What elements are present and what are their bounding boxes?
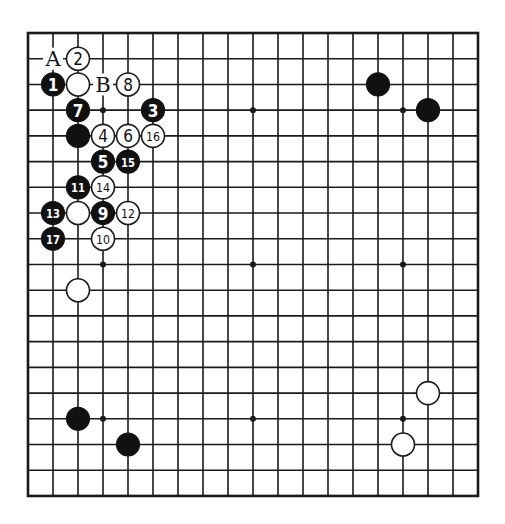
white-stone <box>392 433 415 456</box>
white-stone-6: 6 <box>117 124 140 147</box>
move-number: 7 <box>73 101 84 121</box>
move-number: 16 <box>146 129 160 144</box>
star-point-icon <box>100 416 106 422</box>
black-stone <box>67 407 90 430</box>
move-number: 1 <box>48 75 59 95</box>
star-point-icon <box>250 107 256 113</box>
black-stone-15: 15 <box>117 150 140 173</box>
black-stone <box>367 73 390 96</box>
black-stone-icon <box>367 73 390 96</box>
move-number: 5 <box>98 152 109 172</box>
black-stone-icon <box>417 99 440 122</box>
white-stone-14: 14 <box>92 176 115 199</box>
white-stone <box>417 382 440 405</box>
white-stone-16: 16 <box>142 124 165 147</box>
black-stone-3: 3 <box>142 99 165 122</box>
black-stone-17: 17 <box>42 227 65 250</box>
move-number: 4 <box>98 126 108 146</box>
black-stone-5: 5 <box>92 150 115 173</box>
star-point-icon <box>400 416 406 422</box>
star-point-icon <box>250 261 256 267</box>
point-label-b: B <box>95 73 110 97</box>
black-stone-icon <box>117 433 140 456</box>
white-stone-10: 10 <box>92 227 115 250</box>
white-stone-4: 4 <box>92 124 115 147</box>
black-stone <box>67 124 90 147</box>
move-number: 3 <box>148 101 159 121</box>
black-stone <box>117 433 140 456</box>
star-point-icon <box>400 261 406 267</box>
black-stone-9: 9 <box>92 202 115 225</box>
black-stone <box>417 99 440 122</box>
white-stone <box>67 202 90 225</box>
white-stone-icon <box>67 202 90 225</box>
move-number: 17 <box>46 232 60 247</box>
move-number: 2 <box>73 49 83 69</box>
white-stone-2: 2 <box>67 47 90 70</box>
white-stone-8: 8 <box>117 73 140 96</box>
move-number: 13 <box>46 206 60 221</box>
go-board: AB 2187346165151114139121710 <box>0 0 505 524</box>
star-point-icon <box>100 261 106 267</box>
black-stone-11: 11 <box>67 176 90 199</box>
black-stone-icon <box>67 407 90 430</box>
white-stone <box>67 279 90 302</box>
move-number: 8 <box>123 75 133 95</box>
black-stone-1: 1 <box>42 73 65 96</box>
point-label-a: A <box>44 47 61 71</box>
move-number: 9 <box>98 204 109 224</box>
move-number: 6 <box>123 126 133 146</box>
white-stone-12: 12 <box>117 202 140 225</box>
white-stone <box>67 73 90 96</box>
white-stone-icon <box>67 73 90 96</box>
white-stone-icon <box>392 433 415 456</box>
move-number: 12 <box>121 206 135 221</box>
move-number: 15 <box>121 155 135 170</box>
black-stone-13: 13 <box>42 202 65 225</box>
star-point-icon <box>400 107 406 113</box>
white-stone-icon <box>67 279 90 302</box>
star-point-icon <box>100 107 106 113</box>
black-stone-7: 7 <box>67 99 90 122</box>
move-number: 14 <box>96 180 110 195</box>
star-point-icon <box>250 416 256 422</box>
move-number: 11 <box>71 180 85 195</box>
white-stone-icon <box>417 382 440 405</box>
move-number: 10 <box>96 232 110 247</box>
black-stone-icon <box>67 124 90 147</box>
